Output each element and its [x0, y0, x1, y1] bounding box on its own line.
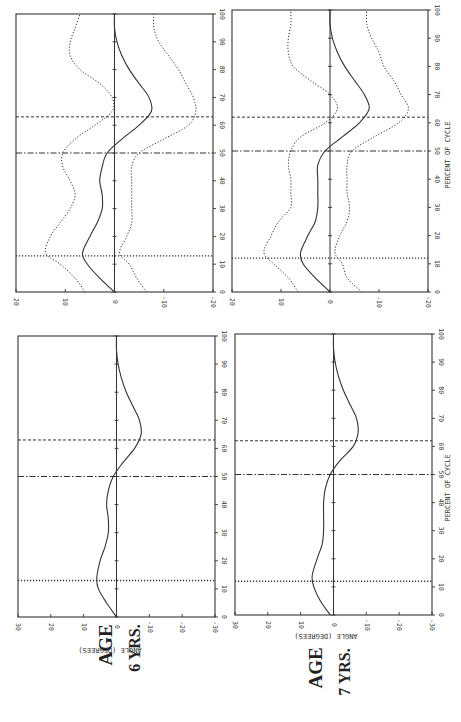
y-tick-label: 10 [61, 298, 69, 306]
x-tick-label: 50 [218, 149, 226, 157]
age-7-label: AGE [305, 647, 326, 688]
x-tick-label: 90 [218, 38, 226, 46]
y-tick-label: 30 [14, 623, 22, 631]
y-tick-label: 0 [111, 300, 119, 304]
y-tick-label: -30 [428, 619, 436, 631]
x-tick-label: 20 [433, 232, 441, 240]
x-tick-label: 60 [218, 121, 226, 129]
svg-text:AGE: AGE [305, 647, 326, 688]
y-tick-label: -10 [363, 619, 371, 631]
x-tick-label: 90 [220, 360, 228, 368]
chart-panel-age7-mean: 01020304050607080901003020100-10-20-30 [231, 328, 445, 631]
chart-panel-age6-band: 010203040506070809010020100-10-20 [12, 8, 226, 308]
x-tick-label: 10 [220, 585, 228, 593]
x-tick-label: 40 [218, 177, 226, 185]
y-tick-label: 10 [80, 623, 88, 631]
x-tick-label: 20 [218, 232, 226, 240]
x-tick-label: 60 [433, 119, 441, 127]
x-tick-label: 40 [433, 175, 441, 183]
svg-text:ANGLE (DEGREES): ANGLE (DEGREES) [78, 646, 141, 654]
gait-angle-figure: 01020304050607080901003020100-10-20-3001… [0, 0, 461, 722]
chart-panel-age7-band: 010203040506070809010020100-10-20 [228, 4, 441, 308]
x-tick-label: 30 [218, 205, 226, 213]
x-tick-label: 100 [220, 330, 228, 342]
svg-text:PERCENT OF CYCLE: PERCENT OF CYCLE [444, 121, 452, 188]
y-tick-label: 20 [47, 623, 55, 631]
y-tick-label: -20 [178, 621, 186, 633]
x-tick-label: 80 [218, 66, 226, 74]
age-6-label: AGE [95, 624, 116, 665]
x-tick-label: 40 [220, 501, 228, 509]
y-tick-label: 0 [326, 300, 334, 304]
y-tick-label: 20 [264, 621, 272, 629]
x-tick-label: 70 [437, 414, 445, 422]
x-tick-label: 30 [433, 203, 441, 211]
x-tick-label: 10 [437, 583, 445, 591]
y-tick-label: 0 [330, 623, 338, 627]
y-tick-label: -20 [424, 296, 432, 308]
svg-text:7 YRS.: 7 YRS. [336, 648, 353, 695]
x-tick-label: 100 [433, 4, 441, 16]
x-tick-label: 50 [220, 473, 228, 481]
y-tick-label: 30 [231, 621, 239, 629]
x-tick-label: 70 [218, 93, 226, 101]
x-axis-label-upper: PERCENT OF CYCLE [444, 121, 452, 188]
x-tick-label: 80 [437, 386, 445, 394]
chart-panels: 01020304050607080901003020100-10-20-3001… [12, 4, 445, 633]
x-tick-label: 0 [218, 290, 226, 294]
x-tick-label: 80 [220, 388, 228, 396]
chart-panel-age6-mean: 01020304050607080901003020100-10-20-30 [14, 330, 228, 633]
y-axis-label-age6: ANGLE (DEGREES) [78, 646, 141, 654]
svg-text:AGE: AGE [95, 624, 116, 665]
y-tick-label: -10 [146, 621, 154, 633]
x-tick-label: 0 [437, 613, 445, 617]
x-tick-label: 80 [433, 62, 441, 70]
x-tick-label: 70 [433, 91, 441, 99]
x-tick-label: 90 [437, 358, 445, 366]
x-tick-label: 20 [437, 555, 445, 563]
x-tick-label: 100 [437, 328, 445, 340]
x-tick-label: 70 [220, 416, 228, 424]
x-tick-label: 20 [220, 557, 228, 565]
age-7-years-label: 7 YRS. [336, 648, 353, 695]
x-tick-label: 0 [220, 615, 228, 619]
x-tick-label: 10 [433, 260, 441, 268]
y-tick-label: 10 [277, 298, 285, 306]
y-tick-label: 10 [297, 621, 305, 629]
x-tick-label: 0 [433, 290, 441, 294]
y-tick-label: -30 [211, 621, 219, 633]
x-tick-label: 90 [433, 34, 441, 42]
x-tick-label: 100 [218, 8, 226, 20]
x-tick-label: 30 [220, 529, 228, 537]
x-tick-label: 60 [220, 444, 228, 452]
y-tick-label: -10 [375, 296, 383, 308]
y-tick-label: 20 [228, 298, 236, 306]
x-tick-label: 30 [437, 527, 445, 535]
x-tick-label: 10 [218, 260, 226, 268]
x-tick-label: 50 [433, 147, 441, 155]
y-tick-label: -20 [209, 296, 217, 308]
x-tick-label: 60 [437, 442, 445, 450]
svg-text:ANGLE (DEGREES): ANGLE (DEGREES) [294, 632, 357, 640]
y-tick-label: 20 [12, 298, 20, 306]
x-axis-label-lower: PERCENT OF CYCLE [444, 454, 452, 521]
y-tick-label: -10 [160, 296, 168, 308]
y-tick-label: -20 [395, 619, 403, 631]
svg-text:PERCENT OF CYCLE: PERCENT OF CYCLE [444, 454, 452, 521]
y-axis-label-age7: ANGLE (DEGREES) [294, 632, 357, 640]
